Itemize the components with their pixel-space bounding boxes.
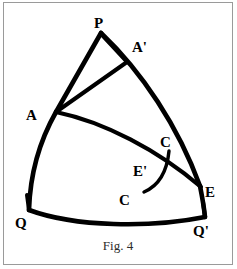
figure-container: P A' A C E' C E Q Q' Fig. 4 xyxy=(0,0,237,269)
segment-a-to-aprime xyxy=(56,62,127,112)
geometry-diagram: P A' A C E' C E Q Q' Fig. 4 xyxy=(0,0,237,269)
label-e-prime: E' xyxy=(133,163,147,179)
arc-p-to-a xyxy=(56,33,101,112)
tick-at-q xyxy=(27,195,29,210)
arc-q-to-qprime xyxy=(29,210,205,224)
label-c-upper: C xyxy=(160,134,171,150)
arc-p-to-e xyxy=(101,33,200,186)
label-c-lower: C xyxy=(119,192,130,208)
label-p: P xyxy=(94,15,103,31)
tick-at-qprime xyxy=(203,202,205,217)
label-a-prime: A' xyxy=(132,39,147,55)
label-q: Q xyxy=(15,215,27,231)
arc-a-to-e xyxy=(56,112,201,187)
segment-p-to-aprime xyxy=(101,34,127,62)
figure-caption: Fig. 4 xyxy=(103,238,134,253)
label-q-prime: Q' xyxy=(193,223,209,239)
label-e: E xyxy=(205,184,215,200)
arc-a-to-q xyxy=(29,112,56,210)
label-a: A xyxy=(26,107,37,123)
arc-c-to-c xyxy=(144,151,169,192)
